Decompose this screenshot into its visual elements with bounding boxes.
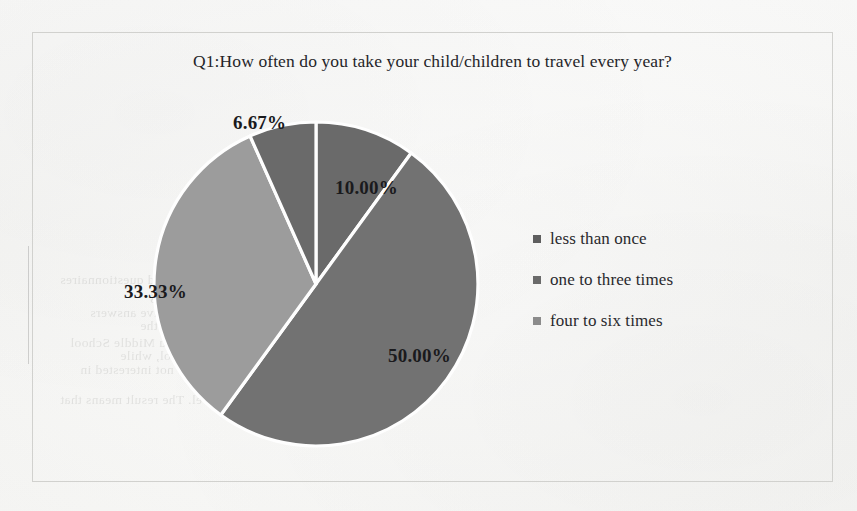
legend-label-0: less than once [550, 229, 647, 249]
pie-slice-label-0: 10.00% [335, 177, 398, 199]
legend-swatch-icon-1 [533, 276, 541, 284]
pie-slice-label-1: 50.00% [388, 345, 451, 367]
legend-item-less-than-once[interactable]: less than once [533, 218, 783, 259]
scan-rule-artifact [28, 246, 29, 364]
pie-slice-group [154, 122, 478, 446]
chart-title: Q1:How often do you take your child/chil… [33, 51, 832, 72]
chart-legend: less than once one to three times four t… [533, 218, 783, 341]
legend-swatch-icon-0 [533, 235, 541, 243]
legend-item-four-to-six-times[interactable]: four to six times [533, 300, 783, 341]
legend-item-one-to-three-times[interactable]: one to three times [533, 259, 783, 300]
chart-frame: Q1:How often do you take your child/chil… [32, 32, 833, 482]
pie-chart[interactable] [146, 114, 486, 454]
legend-swatch-icon-2 [533, 317, 541, 325]
pie-slice-label-3: 6.67% [233, 112, 286, 134]
legend-label-1: one to three times [550, 270, 673, 290]
legend-label-2: four to six times [550, 311, 663, 331]
pie-slice-label-2: 33.33% [124, 281, 187, 303]
